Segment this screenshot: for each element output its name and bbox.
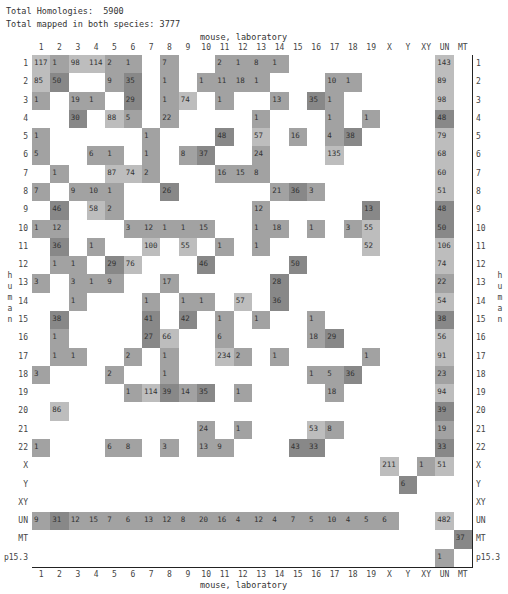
row-label: MT — [2, 534, 28, 543]
grid-cell: 16 — [215, 165, 234, 184]
grid-cell: 1 — [32, 92, 51, 111]
grid-cell — [344, 183, 363, 202]
grid-cell — [289, 366, 308, 385]
grid-cell — [179, 549, 198, 568]
grid-cell — [380, 421, 399, 440]
grid-cell — [454, 55, 473, 74]
grid-cell — [307, 55, 326, 74]
grid-cell — [325, 238, 344, 257]
grid-cell — [124, 530, 143, 549]
grid-cell — [252, 421, 271, 440]
y-axis-title-char: m — [495, 292, 505, 303]
grid-cell — [289, 549, 308, 568]
grid-cell — [179, 457, 198, 476]
grid-cell — [325, 256, 344, 275]
grid-cell — [252, 329, 271, 348]
total-homologies-label: Total Homologies: 5900 — [6, 6, 124, 16]
grid-cell: 22 — [160, 110, 179, 129]
grid-cell — [289, 329, 308, 348]
grid-cell — [234, 476, 253, 495]
grid-cell: 1 — [307, 311, 326, 330]
y-axis-title-char: n — [495, 314, 505, 325]
grid-cell — [32, 329, 51, 348]
row-label: Y — [476, 480, 506, 489]
grid-cell — [160, 457, 179, 476]
column-label: X — [380, 43, 398, 52]
grid-cell: 1 — [362, 110, 381, 129]
grid-cell — [270, 439, 289, 458]
grid-cell — [105, 348, 124, 367]
grid-cell — [87, 293, 106, 312]
grid-cell: 1 — [32, 128, 51, 147]
grid-cell — [179, 128, 198, 147]
grid-cell — [142, 73, 161, 92]
column-label: 13 — [252, 43, 270, 52]
grid-cell — [215, 110, 234, 129]
grid-cell — [179, 530, 198, 549]
grid-cell: 1 — [50, 55, 69, 74]
grid-cell — [179, 329, 198, 348]
grid-cell — [105, 220, 124, 239]
grid-cell — [124, 421, 143, 440]
grid-cell: 7 — [160, 55, 179, 74]
grid-cell: 6 — [215, 329, 234, 348]
column-label: 5 — [105, 570, 123, 579]
grid-cell: 15 — [234, 165, 253, 184]
grid-cell: 482 — [435, 512, 454, 531]
grid-cell — [270, 549, 289, 568]
grid-cell — [142, 110, 161, 129]
grid-cell: 18 — [325, 384, 344, 403]
grid-cell: 114 — [142, 384, 161, 403]
grid-cell: 58 — [87, 201, 106, 220]
grid-cell: 29 — [105, 256, 124, 275]
grid-cell — [252, 494, 271, 513]
grid-cell — [197, 183, 216, 202]
grid-cell — [325, 530, 344, 549]
grid-cell: 1 — [87, 238, 106, 257]
grid-cell — [69, 421, 88, 440]
grid-cell — [399, 293, 418, 312]
grid-cell — [270, 201, 289, 220]
grid-cell — [344, 92, 363, 111]
grid-cell — [69, 384, 88, 403]
grid-cell — [142, 530, 161, 549]
grid-cell — [142, 421, 161, 440]
grid-cell — [307, 402, 326, 421]
grid-cell — [32, 457, 51, 476]
grid-cell — [344, 311, 363, 330]
grid-cell: 39 — [160, 384, 179, 403]
grid-cell — [307, 384, 326, 403]
grid-cell — [252, 402, 271, 421]
grid-cell — [399, 183, 418, 202]
grid-cell — [252, 530, 271, 549]
grid-cell — [399, 128, 418, 147]
grid-cell — [215, 402, 234, 421]
row-label: 2 — [2, 77, 28, 86]
grid-cell: 1 — [252, 110, 271, 129]
grid-cell — [289, 146, 308, 165]
grid-cell: 98 — [435, 92, 454, 111]
column-label: 19 — [362, 43, 380, 52]
grid-cell — [454, 110, 473, 129]
grid-cell: 114 — [87, 55, 106, 74]
grid-cell — [252, 256, 271, 275]
grid-cell: 1 — [234, 384, 253, 403]
grid-cell — [307, 476, 326, 495]
grid-cell — [325, 201, 344, 220]
grid-cell — [50, 274, 69, 293]
grid-cell: 18 — [270, 220, 289, 239]
row-label: 10 — [2, 224, 28, 233]
grid-cell: 19 — [435, 421, 454, 440]
grid-cell — [160, 201, 179, 220]
grid-cell — [124, 402, 143, 421]
row-label: 8 — [2, 187, 28, 196]
grid-cell — [399, 366, 418, 385]
grid-cell — [124, 457, 143, 476]
grid-cell — [252, 549, 271, 568]
grid-cell — [380, 384, 399, 403]
grid-cell — [417, 494, 436, 513]
grid-cell — [270, 402, 289, 421]
grid-cell — [399, 110, 418, 129]
grid-cell — [87, 311, 106, 330]
grid-cell — [380, 311, 399, 330]
